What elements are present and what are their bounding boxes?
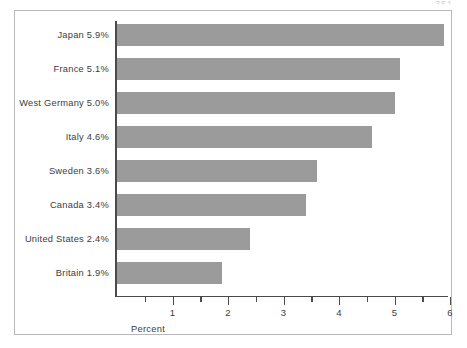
x-axis-major-tick <box>395 297 396 305</box>
x-axis-line <box>115 296 448 297</box>
bar <box>117 126 372 148</box>
bar <box>117 194 306 216</box>
x-axis-minor-tick <box>145 297 146 302</box>
x-axis-tick-label: 3 <box>281 307 286 318</box>
x-axis-tick-label: 2 <box>225 307 230 318</box>
bar-category-label: Sweden 3.6% <box>49 166 109 176</box>
bar <box>117 58 400 80</box>
x-axis-minor-tick <box>200 297 201 302</box>
x-axis-major-tick <box>284 297 285 305</box>
bar <box>117 92 395 114</box>
bar-row: Britain 1.9% <box>15 262 453 284</box>
x-axis-tick-label: 5 <box>392 307 397 318</box>
chart-plot-area: Japan 5.9%France 5.1%West Germany 5.0%It… <box>15 11 453 336</box>
bar-category-label: Canada 3.4% <box>50 200 109 210</box>
bar-category-label: West Germany 5.0% <box>19 98 109 108</box>
bar-row: United States 2.4% <box>15 228 453 250</box>
bar-category-label: Japan 5.9% <box>57 30 109 40</box>
x-axis-minor-tick <box>311 297 312 302</box>
bar-category-label: France 5.1% <box>54 64 109 74</box>
bar <box>117 228 250 250</box>
bar <box>117 24 444 46</box>
bar-row: France 5.1% <box>15 58 453 80</box>
bar <box>117 160 317 182</box>
bar-category-label: United States 2.4% <box>25 234 109 244</box>
bar-category-label: Italy 4.6% <box>66 132 109 142</box>
x-axis-title: Percent <box>15 324 453 334</box>
x-axis-tick-label: 1 <box>170 307 175 318</box>
bar-row: Canada 3.4% <box>15 194 453 216</box>
x-axis-major-tick <box>228 297 229 305</box>
figure-frame: Japan 5.9%France 5.1%West Germany 5.0%It… <box>14 10 452 335</box>
x-axis-minor-tick <box>367 297 368 302</box>
x-axis-tick-label: 4 <box>336 307 341 318</box>
bar-row: Sweden 3.6% <box>15 160 453 182</box>
x-axis-major-tick <box>173 297 174 305</box>
bar-row: West Germany 5.0% <box>15 92 453 114</box>
bar-row: Japan 5.9% <box>15 24 453 46</box>
bar <box>117 262 222 284</box>
bar-category-label: Britain 1.9% <box>56 268 109 278</box>
x-axis-minor-tick <box>256 297 257 302</box>
x-axis-major-tick <box>450 297 451 305</box>
x-axis-title-label: Percent <box>131 324 165 334</box>
x-axis-tick-label: 6 <box>447 307 452 318</box>
page-number-artifact: 351 <box>435 0 453 4</box>
bar-row: Italy 4.6% <box>15 126 453 148</box>
x-axis-major-tick <box>339 297 340 305</box>
x-axis-minor-tick <box>422 297 423 302</box>
